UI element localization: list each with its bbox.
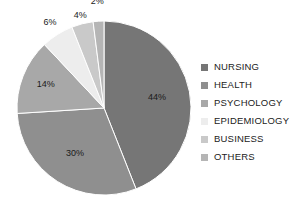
legend-item-label: OTHERS: [214, 152, 255, 162]
pie-data-label-nursing: 44%: [148, 92, 166, 102]
legend-item-label: BUSINESS: [214, 134, 264, 144]
legend-swatch-icon: [201, 136, 208, 143]
pie-data-label-business: 4%: [74, 10, 87, 20]
legend-item-label: EPIDEMIOLOGY: [214, 116, 289, 126]
pie-chart-figure: 44%30%14%6%4%2% NURSINGHEALTHPSYCHOLOGYE…: [0, 0, 308, 214]
pie-data-label-epidemiology: 6%: [43, 17, 56, 27]
legend-swatch-icon: [201, 118, 208, 125]
legend-swatch-icon: [201, 82, 208, 89]
legend-item-label: PSYCHOLOGY: [214, 98, 283, 108]
legend-item-health[interactable]: HEALTH: [201, 76, 307, 94]
pie-data-label-psychology: 14%: [37, 79, 55, 89]
legend-item-epidemiology[interactable]: EPIDEMIOLOGY: [201, 112, 307, 130]
legend-item-others[interactable]: OTHERS: [201, 148, 307, 166]
pie-data-label-health: 30%: [66, 148, 84, 158]
pie-plot-area: 44%30%14%6%4%2%: [0, 0, 200, 214]
chart-legend: NURSINGHEALTHPSYCHOLOGYEPIDEMIOLOGYBUSIN…: [201, 58, 307, 166]
pie-slice-group: [17, 21, 191, 195]
legend-item-label: HEALTH: [214, 80, 252, 90]
legend-item-label: NURSING: [214, 62, 259, 72]
legend-item-psychology[interactable]: PSYCHOLOGY: [201, 94, 307, 112]
legend-swatch-icon: [201, 64, 208, 71]
pie-data-label-others: 2%: [91, 0, 104, 6]
legend-item-nursing[interactable]: NURSING: [201, 58, 307, 76]
legend-swatch-icon: [201, 100, 208, 107]
legend-item-business[interactable]: BUSINESS: [201, 130, 307, 148]
pie-svg: 44%30%14%6%4%2%: [0, 0, 200, 214]
legend-swatch-icon: [201, 154, 208, 161]
